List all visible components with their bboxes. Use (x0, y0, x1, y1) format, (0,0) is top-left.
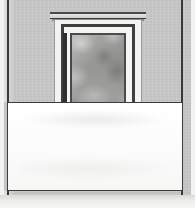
bottom-light-strip (0, 195, 195, 208)
doorway-surround (49, 12, 147, 104)
image-canvas (0, 0, 195, 208)
overlay-flank-right (183, 102, 187, 191)
white-overlay-fill (8, 103, 182, 190)
left-stile (63, 33, 67, 104)
white-overlay-rectangle (7, 102, 183, 191)
mottled-grey-panel (72, 35, 124, 104)
panel-sheen (72, 35, 124, 104)
overlay-smudge-lower (18, 157, 171, 180)
overlay-smudge-upper (25, 110, 164, 129)
